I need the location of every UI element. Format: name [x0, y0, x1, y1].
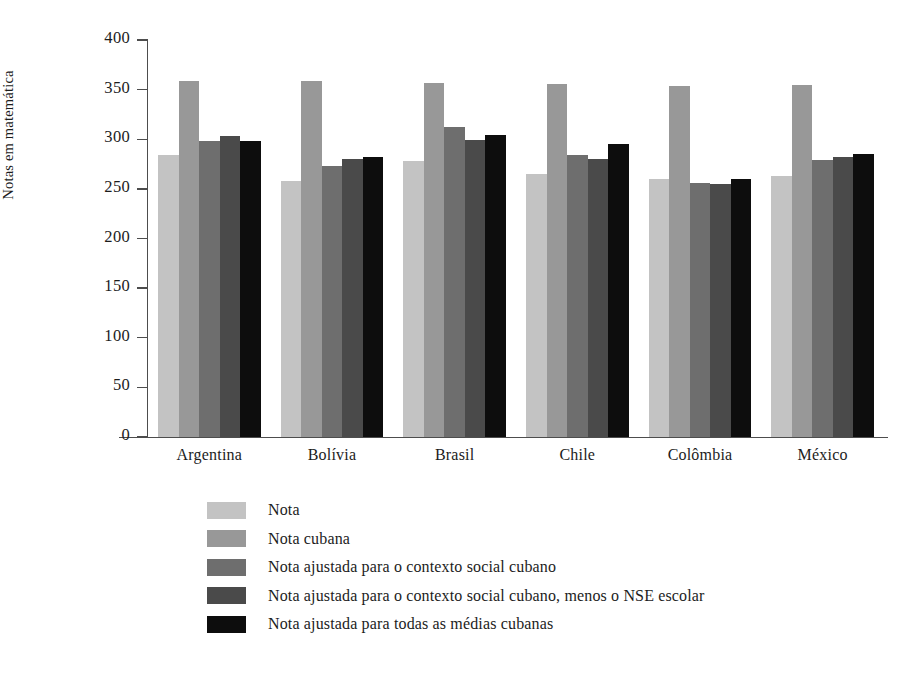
- legend-item: Nota ajustada para todas as médias cuban…: [207, 610, 705, 639]
- legend-item: Nota: [207, 496, 705, 525]
- bar: [649, 179, 670, 437]
- y-axis-tick-label: 50: [113, 375, 130, 395]
- legend-swatch: [207, 559, 246, 576]
- bar: [403, 161, 424, 437]
- bar: [444, 127, 465, 437]
- legend-label: Nota ajustada para todas as médias cuban…: [268, 615, 553, 633]
- y-axis-tick-mark: [137, 287, 148, 288]
- x-axis-category-label: México: [761, 446, 884, 464]
- y-axis-tick-mark: [137, 39, 148, 40]
- bar: [301, 81, 322, 437]
- y-axis-tick-label: 250: [104, 177, 130, 197]
- y-axis-tick-label: 300: [104, 127, 130, 147]
- bar: [424, 83, 445, 437]
- chart-figure: Notas em matemática 05010015020025030035…: [0, 0, 923, 677]
- bar: [281, 181, 302, 437]
- bar: [792, 85, 813, 437]
- y-axis-tick-label: 200: [104, 227, 130, 247]
- bar: [608, 144, 629, 437]
- legend-swatch: [207, 502, 246, 519]
- bar: [485, 135, 506, 437]
- y-axis-tick-mark: [137, 188, 148, 189]
- bar: [363, 157, 384, 437]
- legend-swatch: [207, 530, 246, 547]
- bar: [669, 86, 690, 437]
- bar: [158, 155, 179, 437]
- bar: [199, 141, 220, 437]
- y-axis-tick-label: 100: [104, 326, 130, 346]
- bar: [833, 157, 854, 437]
- bar: [567, 155, 588, 437]
- y-axis-tick-mark: [137, 436, 148, 437]
- y-axis-tick-mark: [137, 89, 148, 90]
- y-axis-title: Notas em matemática: [0, 35, 17, 235]
- legend-swatch: [207, 587, 246, 604]
- chart-legend: NotaNota cubanaNota ajustada para o cont…: [207, 496, 705, 639]
- x-axis-category-label: Argentina: [148, 446, 271, 464]
- legend-item: Nota ajustada para o contexto social cub…: [207, 582, 705, 611]
- y-axis-tick-label: 150: [104, 276, 130, 296]
- bar: [812, 160, 833, 437]
- legend-label: Nota: [268, 501, 300, 519]
- y-axis-tick-label: 0: [121, 425, 130, 445]
- legend-label: Nota cubana: [268, 530, 350, 548]
- x-axis-line: [119, 437, 888, 438]
- bar: [853, 154, 874, 437]
- legend-item: Nota cubana: [207, 525, 705, 554]
- legend-item: Nota ajustada para o contexto social cub…: [207, 553, 705, 582]
- x-axis-category-label: Colômbia: [639, 446, 762, 464]
- bar: [588, 159, 609, 437]
- bar: [771, 176, 792, 437]
- y-axis-tick-mark: [137, 387, 148, 388]
- bar: [342, 159, 363, 437]
- x-axis-category-label: Chile: [516, 446, 639, 464]
- y-axis-tick-mark: [137, 238, 148, 239]
- bar: [465, 140, 486, 437]
- bar: [710, 184, 731, 437]
- y-axis-tick-mark: [137, 337, 148, 338]
- y-axis-tick-label: 400: [104, 28, 130, 48]
- x-axis-category-label: Brasil: [393, 446, 516, 464]
- bar: [240, 141, 261, 437]
- x-axis-category-label: Bolívia: [271, 446, 394, 464]
- bar: [526, 174, 547, 437]
- legend-label: Nota ajustada para o contexto social cub…: [268, 558, 556, 576]
- legend-label: Nota ajustada para o contexto social cub…: [268, 587, 705, 605]
- bar: [547, 84, 568, 437]
- y-axis-tick-mark: [137, 139, 148, 140]
- bar: [690, 183, 711, 437]
- plot-area: [148, 40, 884, 437]
- bar: [179, 81, 200, 437]
- y-axis-tick-label: 350: [104, 78, 130, 98]
- bar: [731, 179, 752, 437]
- legend-swatch: [207, 616, 246, 633]
- bar: [220, 136, 241, 437]
- bar: [322, 166, 343, 437]
